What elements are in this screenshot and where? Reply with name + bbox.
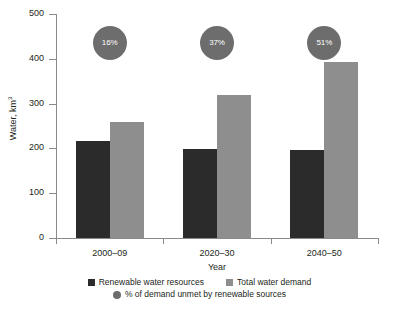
plot-area: 16%37%51% — [56, 14, 378, 238]
legend-item-renewable[interactable]: Renewable water resources — [88, 278, 204, 287]
y-axis-tick-label: 0 — [4, 233, 44, 242]
y-axis-tick — [49, 238, 56, 239]
x-axis-category-label: 2020–30 — [163, 248, 270, 258]
x-axis-category-label: 2000–09 — [56, 248, 163, 258]
legend-label-demand: Total water demand — [237, 278, 311, 287]
bar-renewable-water-resources — [76, 141, 110, 238]
legend-item-unmet[interactable]: % of demand unmet by renewable sources — [113, 290, 286, 299]
square-light-icon — [226, 279, 233, 286]
bar-total-water-demand — [324, 62, 358, 238]
y-axis-tick — [49, 59, 56, 60]
y-axis-tick — [49, 14, 56, 15]
circle-gray-icon — [113, 291, 121, 299]
x-axis-tick — [271, 238, 272, 244]
legend-row-top: Renewable water resources Total water de… — [0, 278, 399, 287]
bar-total-water-demand — [217, 95, 251, 238]
x-axis-tick — [163, 238, 164, 244]
y-axis-tick-label: 500 — [4, 9, 44, 18]
y-axis-title-superscript: 3 — [7, 97, 13, 100]
chart-legend: Renewable water resources Total water de… — [0, 278, 399, 302]
bubble-percent-label: 16% — [102, 39, 118, 47]
y-axis-tick — [49, 104, 56, 105]
x-axis-line — [56, 238, 378, 239]
chart-figure: 0100200300400500 Water, km3 16%37%51% 20… — [0, 0, 399, 320]
legend-label-unmet: % of demand unmet by renewable sources — [125, 290, 286, 299]
x-axis-title: Year — [56, 262, 378, 272]
y-axis-tick — [49, 148, 56, 149]
legend-row-bottom: % of demand unmet by renewable sources — [0, 290, 399, 299]
bar-renewable-water-resources — [290, 150, 324, 238]
bar-renewable-water-resources — [183, 149, 217, 238]
y-axis-tick-label: 100 — [4, 188, 44, 197]
square-dark-icon — [88, 279, 95, 286]
bubble-percent-unmet: 16% — [93, 26, 127, 60]
legend-item-demand[interactable]: Total water demand — [226, 278, 311, 287]
bubble-percent-label: 51% — [316, 39, 332, 47]
bubble-percent-label: 37% — [209, 39, 225, 47]
y-axis-title: Water, km3 — [5, 79, 18, 159]
bubble-percent-unmet: 37% — [200, 26, 234, 60]
x-axis-tick — [56, 238, 57, 244]
bubble-percent-unmet: 51% — [307, 26, 341, 60]
y-axis-tick — [49, 193, 56, 194]
y-axis-title-text: Water, km — [8, 100, 18, 140]
bar-total-water-demand — [110, 122, 144, 238]
x-axis-tick — [378, 238, 379, 244]
x-axis-category-label: 2040–50 — [271, 248, 378, 258]
legend-label-renewable: Renewable water resources — [99, 278, 204, 287]
y-axis-tick-label: 400 — [4, 54, 44, 63]
